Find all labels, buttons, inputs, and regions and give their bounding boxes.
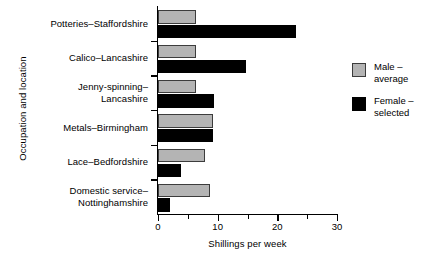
x-axis-tick-label: 0	[138, 221, 178, 232]
legend-swatch-male	[352, 63, 366, 77]
legend-item: Female – selected	[352, 96, 438, 130]
category-label: Metals–Birmingham	[16, 122, 148, 134]
category-label: Calico–Lancashire	[16, 52, 148, 64]
bar-male	[158, 80, 196, 94]
x-axis-tick	[158, 215, 159, 221]
bar-female	[158, 94, 214, 108]
category-label-column: Potteries–StaffordshireCalico–Lancashire…	[18, 6, 152, 214]
x-axis-title: Shillings per week	[157, 238, 338, 249]
category-label: Potteries–Staffordshire	[16, 18, 148, 30]
bar-chart-figure: Occupation and location Potteries–Staffo…	[0, 0, 439, 263]
y-axis-tick	[151, 110, 158, 111]
bar-male	[158, 114, 213, 128]
legend-item: Male – average	[352, 62, 438, 96]
y-axis-tick	[151, 41, 158, 42]
x-axis-minor-tick	[188, 215, 189, 219]
x-axis-tick	[218, 215, 219, 221]
category-label: Domestic service– Nottinghamshire	[16, 185, 148, 208]
category-label: Jenny-spinning– Lancashire	[16, 81, 148, 104]
y-axis-tick	[151, 145, 158, 146]
bar-female	[158, 198, 170, 212]
bar-male	[158, 149, 205, 163]
x-axis-tick-label: 20	[257, 221, 297, 232]
y-axis-tick	[151, 179, 158, 180]
bar-male	[158, 184, 210, 198]
bar-male	[158, 45, 196, 59]
bar-male	[158, 10, 196, 24]
chart-legend: Male – averageFemale – selected	[352, 62, 438, 130]
bar-female	[158, 129, 213, 143]
legend-label: Male – average	[374, 61, 408, 84]
bar-female	[158, 164, 181, 178]
category-label: Lace–Bedfordshire	[16, 156, 148, 168]
x-axis-tick-label: 10	[198, 221, 238, 232]
x-axis-tick	[277, 215, 278, 221]
x-axis-minor-tick	[307, 215, 308, 219]
bar-female	[158, 60, 246, 74]
x-axis-minor-tick	[248, 215, 249, 219]
legend-label: Female – selected	[374, 95, 414, 118]
plot-area	[158, 6, 337, 214]
bar-female	[158, 25, 296, 39]
x-axis-tick	[337, 215, 338, 221]
legend-swatch-female	[352, 97, 366, 111]
y-axis-tick	[151, 75, 158, 76]
x-axis-tick-label: 30	[317, 221, 357, 232]
